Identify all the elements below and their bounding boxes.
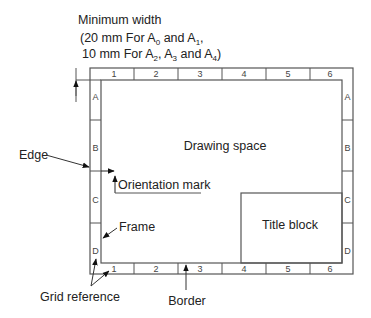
frame: [101, 80, 342, 263]
svg-text:D: D: [92, 246, 99, 256]
row-labels-right: A B C D: [344, 92, 351, 256]
row-labels-left: A B C D: [92, 92, 99, 256]
svg-text:C: C: [344, 195, 351, 205]
edge-label: Edge: [19, 148, 48, 162]
svg-text:C: C: [92, 195, 99, 205]
edge-arrow: [46, 155, 89, 167]
minimum-width-note: Minimum width (20 mm For A0 and A1, 10 m…: [78, 13, 221, 63]
svg-text:4: 4: [241, 69, 246, 79]
grid-reference-label: Grid reference: [40, 290, 120, 304]
svg-text:3: 3: [197, 264, 202, 274]
min-width-line1: Minimum width: [78, 13, 161, 27]
svg-text:1: 1: [111, 69, 116, 79]
min-width-line3: 10 mm For A2, A3 and A4): [82, 47, 221, 63]
column-dividers: [134, 68, 310, 274]
drawing-sheet-diagram: Minimum width (20 mm For A0 and A1, 10 m…: [0, 0, 371, 318]
drawing-space-label: Drawing space: [184, 139, 267, 153]
svg-text:D: D: [344, 246, 351, 256]
frame-label: Frame: [119, 220, 155, 234]
title-block-label: Title block: [262, 218, 319, 232]
svg-text:5: 5: [285, 69, 290, 79]
sheet-border: [90, 68, 353, 274]
border-label: Border: [168, 294, 206, 308]
row-dividers: [90, 120, 353, 223]
svg-text:3: 3: [197, 69, 202, 79]
orientation-mark-label: Orientation mark: [118, 178, 211, 192]
svg-text:6: 6: [327, 69, 332, 79]
svg-text:B: B: [92, 143, 98, 153]
svg-text:B: B: [344, 143, 350, 153]
svg-text:5: 5: [285, 264, 290, 274]
svg-text:A: A: [344, 92, 350, 102]
svg-text:4: 4: [241, 264, 246, 274]
svg-text:2: 2: [153, 69, 158, 79]
svg-text:6: 6: [327, 264, 332, 274]
svg-text:A: A: [92, 92, 98, 102]
svg-text:1: 1: [111, 264, 116, 274]
svg-text:2: 2: [153, 264, 158, 274]
frame-arrow: [103, 228, 117, 238]
min-width-line2: (20 mm For A0 and A1,: [80, 31, 204, 47]
